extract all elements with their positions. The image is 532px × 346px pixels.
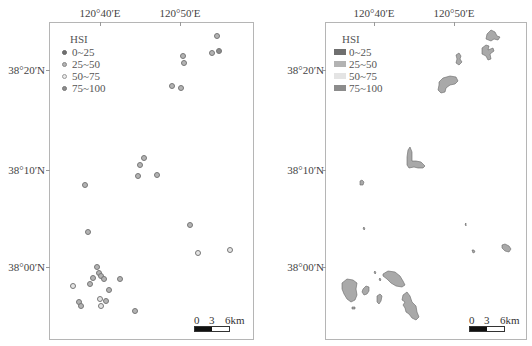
legend-title: HSI	[70, 33, 105, 45]
island-polygon	[360, 180, 364, 185]
island-polygon	[472, 250, 475, 253]
station-point	[187, 222, 193, 228]
station-point	[209, 50, 215, 56]
station-point	[101, 276, 107, 282]
point-symbol-icon	[62, 86, 67, 91]
station-point	[141, 155, 147, 161]
station-point	[78, 303, 84, 309]
legend-item: 0~25	[62, 46, 105, 58]
station-point	[103, 298, 109, 304]
tick	[46, 267, 50, 268]
scale-bar: 0 3 6km	[194, 314, 254, 332]
station-point	[90, 275, 96, 281]
point-symbol-icon	[62, 62, 67, 67]
station-point	[214, 33, 220, 39]
station-point	[181, 60, 187, 66]
lat-label: 38°20′N	[8, 64, 45, 76]
legend: HSI 0~25 25~50 50~75 75~100	[62, 33, 105, 94]
station-point	[180, 53, 186, 59]
point-symbol-icon	[62, 74, 67, 79]
island-polygon	[379, 278, 381, 281]
island-polygon	[362, 286, 369, 295]
station-point	[169, 83, 175, 89]
point-symbol-icon	[62, 50, 67, 55]
lon-label: 120°40′E	[79, 7, 120, 19]
tick	[100, 22, 101, 26]
station-point	[98, 303, 104, 309]
island-polygon	[456, 53, 462, 65]
tick	[180, 22, 181, 26]
station-point	[82, 182, 88, 188]
station-point	[70, 283, 76, 289]
island-polygon	[342, 279, 357, 302]
tick	[46, 170, 50, 171]
habitat-polygons	[266, 0, 532, 346]
legend-item: 50~75	[62, 70, 105, 82]
station-point	[135, 173, 141, 179]
station-point	[106, 287, 112, 293]
island-polygon	[407, 147, 425, 168]
tick	[46, 70, 50, 71]
station-point	[87, 281, 93, 287]
station-point	[132, 308, 138, 314]
station-point	[117, 276, 123, 282]
station-point	[216, 48, 222, 54]
lat-label: 38°10′N	[8, 164, 45, 176]
legend-item: 75~100	[62, 82, 105, 94]
island-polygon	[438, 76, 458, 93]
station-map-panel: 120°40′E 120°50′E 38°20′N 38°10′N 38°00′…	[0, 0, 266, 346]
island-polygon	[402, 292, 419, 320]
habitat-map-panel: 120°40′E 120°50′E 38°20′N 38°10′N 38°00′…	[266, 0, 532, 346]
island-polygon	[352, 307, 355, 309]
station-point	[85, 229, 91, 235]
station-point	[137, 162, 143, 168]
legend-item: 25~50	[62, 58, 105, 70]
scale-bar: 0 3 6km	[469, 314, 529, 332]
island-polygon	[465, 223, 466, 226]
lat-label: 38°00′N	[8, 261, 45, 273]
island-polygon	[377, 294, 382, 304]
island-polygon	[383, 271, 405, 287]
island-polygon	[482, 45, 494, 60]
island-polygon	[502, 244, 511, 252]
station-point	[178, 85, 184, 91]
station-point	[227, 247, 233, 253]
lon-label: 120°50′E	[159, 7, 200, 19]
station-point	[195, 250, 201, 256]
island-polygon	[363, 227, 365, 230]
island-polygon	[374, 271, 376, 274]
station-point	[154, 172, 160, 178]
island-polygon	[486, 30, 500, 41]
